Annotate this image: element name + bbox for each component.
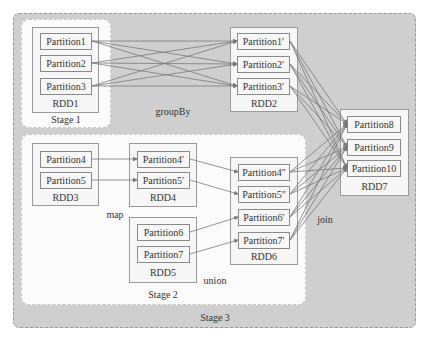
dependency-edges <box>0 0 426 339</box>
